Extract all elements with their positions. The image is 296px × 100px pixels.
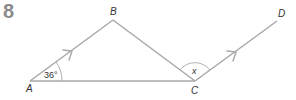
point-label-a: A: [26, 84, 33, 94]
point-label-b: B: [110, 7, 117, 17]
geometry-figure: 8 A B C D 36° x: [0, 0, 296, 100]
angle-label-c: x: [192, 66, 197, 76]
point-label-c: C: [191, 86, 198, 96]
angle-label-a: 36°: [44, 71, 58, 80]
point-label-d: D: [278, 9, 285, 19]
segment-cd: [195, 21, 277, 81]
question-number: 8: [3, 1, 14, 21]
diagram-canvas: [0, 0, 296, 100]
segment-bc: [113, 20, 195, 81]
